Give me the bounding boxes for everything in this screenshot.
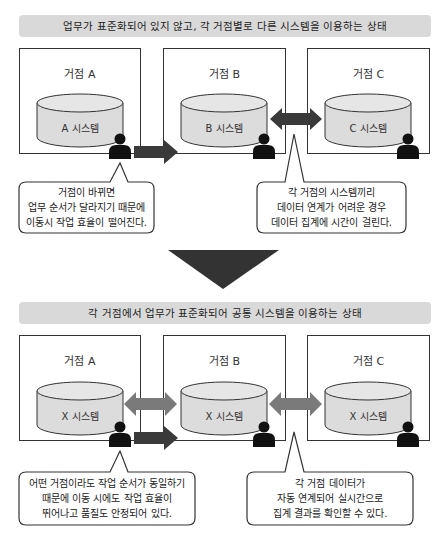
callout-bubbles-bottom: [0, 0, 443, 541]
callout-text-a: 어떤 거점이라도 작업 순서가 동일하기 때문에 이동 시에도 작업 효율이 뛰…: [19, 476, 195, 521]
callout-text-b: 각 거점 데이터가 자동 연계되어 실시간으로 집계 결과를 확인할 수 있다.: [247, 476, 413, 521]
